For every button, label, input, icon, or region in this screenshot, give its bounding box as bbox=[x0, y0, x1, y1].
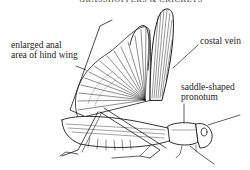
illustration-page: GRASSHOPPERS & CRICKETS bbox=[0, 0, 250, 170]
label-pronotum-line2: pronotum bbox=[181, 92, 235, 102]
hind-wing bbox=[75, 26, 150, 118]
label-anal-area: enlarged anal area of hind wing bbox=[11, 40, 78, 60]
grasshopper-body bbox=[60, 108, 240, 164]
anal-area-pointer bbox=[76, 66, 86, 70]
label-anal-area-line1: enlarged anal bbox=[11, 40, 78, 50]
label-pronotum: saddle-shaped pronotum bbox=[181, 82, 235, 102]
label-pronotum-line1: saddle-shaped bbox=[181, 82, 235, 92]
label-anal-area-line2: area of hind wing bbox=[11, 50, 78, 60]
fore-wing bbox=[150, 9, 173, 100]
costal-vein-pointer bbox=[173, 45, 198, 68]
label-costal-vein: costal vein bbox=[200, 36, 241, 46]
